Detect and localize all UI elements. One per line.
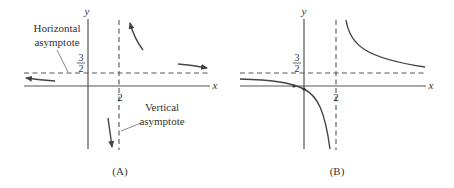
- panel-b: y x 2 3 2 (B): [240, 5, 434, 178]
- x-tick-label: 2: [333, 91, 339, 103]
- x-axis-label: x: [212, 79, 218, 91]
- y-axis-label: y: [301, 5, 307, 17]
- arrow-lower-near-asymptote: [108, 118, 112, 147]
- y-tick-fraction: 3 2: [77, 52, 85, 74]
- lower-left-branch: [240, 79, 330, 149]
- panel-caption-a: (A): [112, 165, 128, 178]
- svg-text:3: 3: [79, 52, 84, 63]
- vertical-asymptote-leader: [121, 123, 141, 131]
- svg-text:2: 2: [295, 63, 300, 74]
- horizontal-asymptote-label-line1: Horizontal: [33, 22, 80, 34]
- y-intercept-point: [302, 87, 305, 90]
- panel-a: y x 2 3 2 Horizontal asymptote Vertical …: [24, 5, 218, 178]
- horizontal-asymptote-label-line2: asymptote: [34, 36, 79, 48]
- vertical-asymptote-label-line2: asymptote: [139, 115, 184, 127]
- horizontal-asymptote-leader: [57, 50, 68, 72]
- upper-right-branch: [346, 20, 425, 67]
- svg-text:2: 2: [79, 63, 84, 74]
- vertical-asymptote-label-line1: Vertical: [145, 101, 179, 113]
- x-intercept-point: [292, 84, 295, 87]
- arrow-left-end: [26, 78, 55, 81]
- x-axis-label: x: [428, 79, 434, 91]
- x-tick-label: 2: [117, 91, 123, 103]
- svg-text:3: 3: [295, 52, 300, 63]
- y-axis-label: y: [84, 5, 90, 17]
- panel-caption-b: (B): [330, 165, 345, 178]
- y-tick-fraction: 3 2: [293, 52, 301, 74]
- arrow-upper-near-asymptote: [130, 23, 143, 50]
- arrow-right-end: [178, 64, 207, 68]
